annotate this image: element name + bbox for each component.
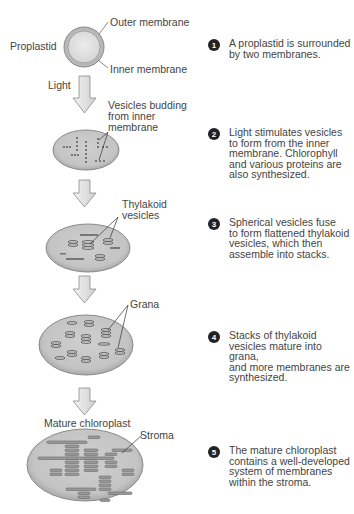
step-number-badge: 1 [208,39,220,51]
proplastid-label: Proplastid [10,41,57,52]
proplastid-illustration [64,22,108,68]
step-number-badge: 5 [208,446,220,458]
step-1: 1 A proplastid is surrounded by two memb… [208,38,354,59]
arrow-icon [73,180,96,207]
thylakoid-vesicles-label: Thylakoid vesicles [122,199,167,221]
vesicle-budding-plastid [53,130,119,170]
arrow-icon [73,388,96,415]
step-description: Light stimulates vesicles to form from t… [229,127,354,180]
step-number-badge: 2 [208,128,220,140]
vesicles-budding-label: Vesicles budding from inner membrane [108,100,187,133]
inner-membrane-label: Inner membrane [110,64,187,75]
thylakoid-vesicle-plastid [46,217,130,272]
step-number-badge: 3 [208,218,220,230]
step-number-badge: 4 [208,331,220,343]
step-description: The mature chloroplast contains a well-d… [229,445,354,487]
mature-chloroplast-label: Mature chloroplast [44,418,130,429]
step-4: 4 Stacks of thylakoid vesicles mature in… [208,330,354,383]
grana-plastid [39,305,133,375]
mature-chloroplast-illustration [27,429,143,502]
step-3: 3 Spherical vesicles fuse to form flatte… [208,217,354,259]
arrow-icon [73,76,96,113]
step-2: 2 Light stimulates vesicles to form from… [208,127,354,180]
light-label: Light [48,80,71,91]
step-description: Stacks of thylakoid vesicles mature into… [229,330,354,383]
step-description: A proplastid is surrounded by two membra… [229,38,354,59]
step-description: Spherical vesicles fuse to form flattene… [229,217,354,259]
grana-label: Grana [130,299,159,310]
arrow-icon [73,276,96,303]
stroma-label: Stroma [140,430,174,441]
outer-membrane-label: Outer membrane [110,17,189,28]
step-5: 5 The mature chloroplast contains a well… [208,445,354,487]
